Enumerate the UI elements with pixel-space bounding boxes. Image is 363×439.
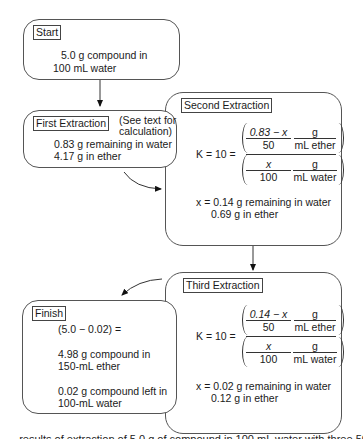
first-extraction-label: First Extraction: [33, 116, 109, 131]
second-unit-bot-den: mL water: [293, 171, 337, 183]
finish-label: Finish: [32, 306, 66, 321]
first-extraction-box: First Extraction (See text for calculati…: [23, 110, 177, 168]
start-label: Start: [33, 25, 61, 40]
finish-line5: 100-mL water: [58, 397, 122, 410]
third-unit-bot-den: mL water: [293, 353, 337, 365]
third-result2: 0.12 g in ether: [211, 392, 278, 405]
caption-text: ...results of extraction of 5.0 g of com…: [0, 432, 363, 439]
third-unit-bot-num: g: [293, 340, 337, 353]
third-main-bar: [246, 336, 336, 337]
finish-line2: 4.98 g compound in: [58, 348, 150, 361]
second-bot-num: x: [246, 158, 291, 171]
first-line1: 0.83 g remaining in water: [54, 138, 172, 151]
third-extraction-box: Third Extraction KK = 10 = 0.14 − x 50 g…: [165, 272, 342, 434]
third-unit-top-num: g: [294, 308, 336, 321]
second-result1: x = 0.14 g remaining in water: [196, 196, 331, 209]
start-line1: 5.0 g compound in: [61, 49, 147, 62]
third-extraction-label: Third Extraction: [183, 278, 263, 293]
first-line2: 4.17 g in ether: [54, 150, 121, 163]
second-unit-bot-num: g: [293, 158, 337, 171]
start-line2: 100 mL water: [53, 62, 116, 75]
finish-line3: 150-mL ether: [58, 360, 120, 373]
second-main-bar: [246, 154, 336, 155]
third-top-den: 50: [246, 321, 291, 333]
third-bot-num: x: [246, 340, 291, 353]
third-result1: x = 0.02 g remaining in water: [196, 380, 331, 393]
finish-box: Finish (5.0 − 0.02) = 4.98 g compound in…: [22, 300, 177, 414]
start-box: Start 5.0 g compound in 100 mL water: [23, 19, 180, 80]
second-k-label: K = 10 =: [196, 148, 236, 160]
second-unit-top-num: g: [294, 126, 336, 139]
third-top-num: 0.14 − x: [246, 308, 291, 321]
second-extraction-label: Second Extraction: [181, 98, 272, 113]
finish-line1: (5.0 − 0.02) =: [58, 323, 121, 336]
second-top-num: 0.83 − x: [246, 126, 291, 139]
second-result2: 0.69 g in ether: [211, 208, 278, 221]
figure-caption: ...results of extraction of 5.0 g of com…: [0, 432, 363, 439]
second-unit-top-den: mL ether: [294, 139, 336, 151]
first-note2: calculation): [119, 125, 172, 138]
second-extraction-box: Second Extraction KK = 10 = 0.83 − x 50 …: [165, 92, 342, 246]
finish-line4: 0.02 g compound left in: [58, 385, 167, 398]
second-bot-den: 100: [246, 171, 291, 183]
third-unit-top-den: mL ether: [294, 321, 336, 333]
third-bot-den: 100: [246, 353, 291, 365]
third-k-label: K = 10 =: [196, 330, 236, 342]
second-top-den: 50: [246, 139, 291, 151]
